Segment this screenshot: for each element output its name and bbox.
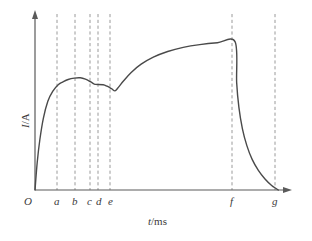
x-axis-arrowhead: [283, 187, 292, 193]
dashed-guide-lines: [57, 14, 275, 190]
xtick-label-g: g: [272, 196, 278, 207]
current-curve: [35, 39, 278, 190]
xtick-label-f: f: [230, 196, 233, 207]
x-axis-title: t/ms: [148, 216, 167, 227]
xtick-label-d: d: [96, 196, 102, 207]
x-axis-title-unit: /ms: [151, 215, 167, 227]
xtick-label-a: a: [54, 196, 60, 207]
chart-canvas: [0, 0, 312, 241]
y-axis-title-unit: /A: [19, 113, 31, 124]
xtick-label-O: O: [24, 196, 32, 207]
current-time-figure: O a b c d e f g I/A t/ms: [0, 0, 312, 241]
y-axis-title: I/A: [20, 113, 31, 128]
y-axis-title-var: I: [19, 124, 31, 128]
xtick-label-b: b: [72, 196, 78, 207]
y-axis-arrowhead: [32, 10, 38, 19]
xtick-label-e: e: [108, 196, 113, 207]
xtick-label-c: c: [87, 196, 92, 207]
